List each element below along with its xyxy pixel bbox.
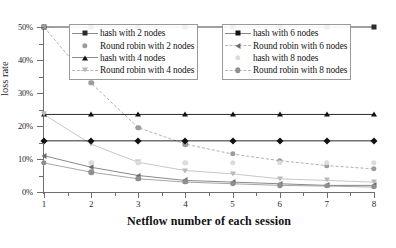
legend-item[interactable]: Round robin with 4 nodes — [72, 64, 194, 76]
data-point — [135, 112, 141, 117]
data-point — [41, 112, 47, 117]
x-tick-minor — [256, 192, 257, 196]
legend-item[interactable]: hash with 4 nodes — [72, 52, 194, 64]
x-tick-major: 4 — [185, 192, 186, 198]
legend-item[interactable]: hash with 6 nodes — [225, 27, 347, 39]
y-tick-minor — [39, 44, 44, 45]
x-tick-label: 2 — [89, 199, 94, 209]
data-point — [230, 171, 236, 176]
x-tick-label: 3 — [136, 199, 141, 209]
legend-label: hash with 6 nodes — [251, 28, 318, 38]
legend-item[interactable]: hash with 2 nodes — [72, 27, 194, 39]
legend-key-hash-2-nodes — [72, 28, 98, 39]
data-point — [182, 112, 188, 117]
y-tick-minor — [39, 77, 44, 78]
y-tick-major: 0% — [37, 192, 44, 193]
x-tick-label: 5 — [230, 199, 235, 209]
x-tick-label: 8 — [372, 199, 377, 209]
legend-right-column: hash with 6 nodes Round robin with 6 nod… — [222, 24, 351, 80]
data-point — [230, 112, 236, 117]
legend-label: hash with 8 nodes — [251, 53, 318, 63]
y-tick-label: 40% — [18, 55, 33, 65]
data-point — [88, 112, 94, 117]
x-tick-major: 5 — [233, 192, 234, 198]
x-tick-major: 1 — [44, 192, 45, 198]
chart-figure: loss rate Netflow number of each session… — [0, 0, 396, 248]
legend-label: hash with 2 nodes — [98, 28, 165, 38]
legend-key-hash-6-nodes — [225, 28, 251, 39]
data-point — [371, 160, 376, 165]
data-point — [371, 184, 376, 189]
x-tick-minor — [303, 192, 304, 196]
x-tick-label: 7 — [325, 199, 330, 209]
legend-label: Round robin with 6 nodes — [251, 41, 347, 51]
legend-key-hash-8-nodes — [225, 52, 251, 63]
legend-item[interactable]: Round robin with 8 nodes — [225, 64, 347, 76]
y-tick-minor — [39, 143, 44, 144]
legend-item[interactable]: hash with 8 nodes — [225, 52, 347, 64]
data-point — [182, 168, 188, 173]
data-point — [371, 166, 376, 171]
y-tick-label: 30% — [18, 88, 33, 98]
legend-item[interactable]: Round robin with 2 nodes — [72, 39, 194, 51]
x-tick-major: 8 — [374, 192, 375, 198]
y-tick-major: 10% — [37, 159, 44, 160]
x-axis-title: Netflow number of each session — [44, 214, 374, 229]
legend-label: Round robin with 8 nodes — [251, 65, 347, 75]
legend-key-round-robin-6-nodes — [225, 40, 251, 51]
y-tick-major: 50% — [37, 27, 44, 28]
y-tick-major: 30% — [37, 93, 44, 94]
legend-left-column: hash with 2 nodes Round robin with 2 nod… — [69, 24, 198, 80]
y-tick-label: 0% — [22, 187, 33, 197]
legend-item[interactable]: Round robin with 6 nodes — [225, 39, 347, 51]
data-point — [371, 112, 377, 117]
y-tick-label: 10% — [18, 154, 33, 164]
y-tick-label: 20% — [18, 121, 33, 131]
y-axis-title: loss rate — [0, 61, 10, 96]
y-tick-label: 50% — [18, 22, 33, 32]
legend-key-round-robin-8-nodes — [225, 65, 251, 76]
legend-label: Round robin with 4 nodes — [98, 65, 194, 75]
x-tick-major: 3 — [138, 192, 139, 198]
x-tick-major: 6 — [280, 192, 281, 198]
x-tick-minor — [209, 192, 210, 196]
y-tick-minor — [39, 110, 44, 111]
series-line — [44, 114, 374, 182]
legend-label: Round robin with 2 nodes — [98, 41, 194, 51]
legend-key-round-robin-2-nodes — [72, 40, 98, 51]
legend-label: hash with 4 nodes — [98, 53, 165, 63]
y-tick-major: 20% — [37, 126, 44, 127]
x-tick-minor — [115, 192, 116, 196]
data-point — [324, 112, 330, 117]
data-point — [42, 153, 47, 159]
y-tick-minor — [39, 176, 44, 177]
x-tick-major: 7 — [327, 192, 328, 198]
y-tick-major: 40% — [37, 60, 44, 61]
x-tick-minor — [68, 192, 69, 196]
x-tick-label: 4 — [183, 199, 188, 209]
data-point — [372, 25, 377, 30]
x-tick-major: 2 — [91, 192, 92, 198]
x-tick-label: 6 — [277, 199, 282, 209]
x-tick-minor — [162, 192, 163, 196]
x-tick-minor — [350, 192, 351, 196]
data-point — [277, 112, 283, 117]
legend-key-hash-4-nodes — [72, 52, 98, 63]
legend-key-round-robin-4-nodes — [72, 65, 98, 76]
x-tick-label: 1 — [42, 199, 47, 209]
